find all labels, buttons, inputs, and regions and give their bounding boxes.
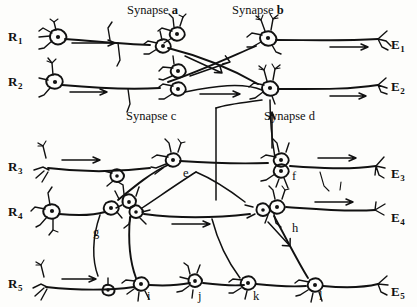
synapse-h: [245, 186, 289, 227]
receptor-label-R4: R4: [8, 205, 22, 221]
crossing-R2-second: [185, 86, 262, 97]
branch-g-to-i: [129, 217, 136, 278]
branch-g-to-e: [118, 165, 245, 208]
point-label-e: e: [183, 167, 189, 180]
point-label-k: k: [253, 290, 259, 303]
synapse-label-c: Synapse c: [126, 110, 176, 123]
effector-E5: [323, 276, 388, 295]
point-label-i: i: [147, 290, 150, 303]
neuron-R3: [34, 141, 150, 186]
effector-label-E1: E1: [391, 38, 405, 54]
neuron-R5: [33, 260, 134, 300]
neural-circuit-figure: .ax { fill:none; stroke:#111; stroke-wid…: [0, 0, 417, 307]
neuron-R2: [39, 58, 160, 112]
effector-label-E2: E2: [391, 80, 405, 96]
effector-label-E4: E4: [391, 211, 405, 227]
synapse-e: [151, 139, 268, 174]
synapse-i: [122, 277, 190, 301]
point-label-f: f: [292, 170, 296, 183]
effector-E4: [286, 182, 385, 215]
point-label-h: h: [292, 222, 298, 235]
effector-E1: [276, 31, 391, 50]
synapse-label-d: Synapse d: [264, 110, 315, 123]
receptor-label-R2: R2: [8, 75, 22, 91]
synapse-a: [144, 14, 186, 54]
receptor-label-R5: R5: [8, 277, 22, 293]
receptor-label-R1: R1: [8, 30, 22, 46]
synapse-label-b: Synapse b: [232, 4, 284, 17]
synapse-k: [229, 276, 306, 299]
branch-h-to-l: [268, 216, 308, 278]
effector-label-E3: E3: [391, 167, 405, 183]
receptor-label-R3: R3: [8, 160, 22, 176]
effector-label-E5: E5: [391, 285, 405, 301]
point-label-g: g: [93, 226, 99, 239]
synapse-d: [249, 64, 280, 104]
point-label-l: l: [319, 290, 322, 303]
circuit-drawing: .ax { fill:none; stroke:#111; stroke-wid…: [0, 0, 417, 307]
effector-E2: [278, 78, 387, 99]
effector-E3: [290, 155, 385, 191]
branch-R4-to-k: [94, 215, 240, 278]
synapse-label-a: Synapse a: [127, 4, 178, 17]
point-label-j: j: [198, 290, 201, 303]
